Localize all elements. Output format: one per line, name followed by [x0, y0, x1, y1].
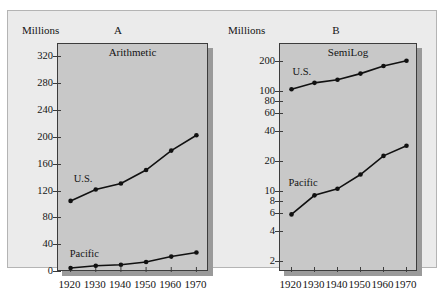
- panel-a-y-tick-mark: [53, 191, 61, 192]
- panel-a-y-tick-mark: [53, 271, 61, 272]
- panel-b-data-point: [404, 143, 409, 148]
- panel-a-y-tick-label: 320: [13, 51, 53, 61]
- panel-b-y-tick-mark: [275, 261, 283, 262]
- panel-a-y-tick-label: 280: [13, 78, 53, 88]
- panel-b: Millions B SemiLog U.S. Pacific 24681020…: [222, 0, 444, 301]
- panel-b-pacific-label: Pacific: [289, 177, 318, 188]
- panel-b-y-tick-mark: [275, 161, 283, 162]
- panel-b-y-tick-label: 80: [235, 96, 275, 106]
- panel-b-y-tick-mark: [275, 231, 283, 232]
- panel-a-data-point: [68, 199, 73, 204]
- panel-b-data-point: [404, 59, 409, 64]
- panel-b-y-tick-label: 2: [235, 256, 275, 266]
- panel-b-x-tick-label: 1970: [389, 278, 423, 290]
- panel-b-y-tick-mark: [275, 91, 283, 92]
- panel-b-y-tick-label: 10: [235, 186, 275, 196]
- panel-a-y-tick-label: 40: [13, 239, 53, 249]
- panel-b-us-label: U.S.: [293, 66, 312, 77]
- panel-a-y-tick-label: 120: [13, 186, 53, 196]
- panel-b-y-tick-mark: [275, 213, 283, 214]
- panel-a-y-tick-label: 80: [13, 212, 53, 222]
- panel-b-y-tick-label: 8: [235, 196, 275, 206]
- panel-b-data-point: [358, 71, 363, 76]
- panel-b-y-tick-mark: [275, 191, 283, 192]
- panel-a-y-tick-label: 200: [13, 132, 53, 142]
- panel-b-data-point: [381, 64, 386, 69]
- panel-b-y-tick-label: 60: [235, 108, 275, 118]
- panel-a-data-point: [93, 187, 98, 192]
- panel-a-y-tick-mark: [53, 244, 61, 245]
- panel-b-data-point: [312, 81, 317, 86]
- panel-b-y-tick-label: 4: [235, 226, 275, 236]
- panel-a-y-tick-mark: [53, 83, 61, 84]
- panel-a-series-layer: [58, 44, 209, 272]
- panel-b-y-tick-mark: [275, 113, 283, 114]
- panel-a-y-tick-label: 240: [13, 105, 53, 115]
- panel-a-letter: A: [108, 24, 128, 36]
- panel-b-letter: B: [326, 24, 346, 36]
- panel-b-y-tick-label: 20: [235, 156, 275, 166]
- panel-a-data-point: [169, 254, 174, 259]
- panel-b-data-point: [312, 193, 317, 198]
- panel-a-data-point: [169, 148, 174, 153]
- panel-b-axis-caption: Millions: [228, 24, 265, 36]
- panel-b-y-tick-label: 6: [235, 208, 275, 218]
- panel-b-y-tick-mark: [275, 131, 283, 132]
- panel-a-y-tick-mark: [53, 137, 61, 138]
- figure-container: Millions A Arithmetic U.S. Pacific 04080…: [0, 0, 444, 301]
- panel-b-data-point: [381, 154, 386, 159]
- panel-a-y-tick-mark: [53, 56, 61, 57]
- panel-b-y-tick-mark: [275, 61, 283, 62]
- panel-a-y-tick-mark: [53, 217, 61, 218]
- panel-a-y-tick-label: 160: [13, 159, 53, 169]
- panel-a-series-us: [71, 135, 197, 201]
- panel-a-plot-area: Arithmetic U.S. Pacific: [57, 43, 208, 271]
- panel-b-data-point: [335, 77, 340, 82]
- panel-a-data-point: [119, 181, 124, 186]
- panel-b-series-layer: [280, 44, 418, 272]
- panel-a-data-point: [119, 262, 124, 267]
- panel-a-y-tick-mark: [53, 164, 61, 165]
- panel-b-data-point: [289, 212, 294, 217]
- panel-b-y-tick-label: 40: [235, 126, 275, 136]
- panel-a: Millions A Arithmetic U.S. Pacific 04080…: [0, 0, 222, 301]
- panel-a-data-point: [144, 168, 149, 173]
- panel-a-y-tick-mark: [53, 110, 61, 111]
- panel-b-y-tick-mark: [275, 201, 283, 202]
- panel-b-y-tick-label: 200: [235, 56, 275, 66]
- panel-a-us-label: U.S.: [74, 173, 93, 184]
- panel-b-data-point: [289, 87, 294, 92]
- panel-b-y-tick-mark: [275, 101, 283, 102]
- panel-a-data-point: [68, 266, 73, 271]
- panel-a-data-point: [93, 263, 98, 268]
- panel-a-y-tick-label: 0: [13, 266, 53, 276]
- panel-b-data-point: [358, 172, 363, 177]
- panel-a-x-tick-label: 1970: [178, 278, 212, 290]
- panel-b-plot-area: SemiLog U.S. Pacific: [279, 43, 417, 271]
- panel-a-data-point: [194, 250, 199, 255]
- panel-a-data-point: [144, 260, 149, 265]
- panel-a-pacific-label: Pacific: [70, 248, 99, 259]
- panel-b-y-tick-label: 100: [235, 86, 275, 96]
- panel-a-axis-caption: Millions: [22, 24, 59, 36]
- panel-b-data-point: [335, 187, 340, 192]
- panel-a-data-point: [194, 133, 199, 138]
